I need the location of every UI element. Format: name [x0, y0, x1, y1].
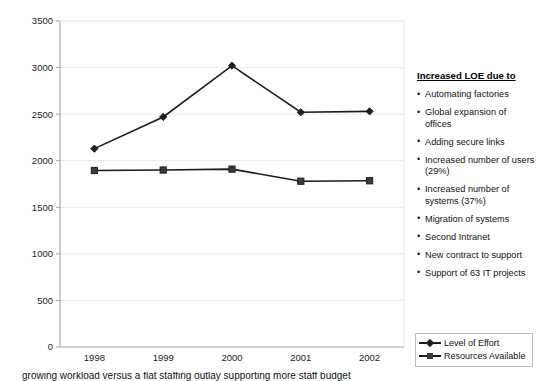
x-axis-tick-label: 1999	[153, 352, 174, 363]
annotation-item: Migration of systems	[417, 214, 535, 226]
data-point-marker	[298, 178, 304, 184]
y-axis-tick-label: 3500	[32, 15, 53, 26]
caption-text: growing workload versus a flat staffing …	[22, 372, 351, 381]
annotation-item: Second Intranet	[417, 232, 535, 244]
annotation-item: New contract to support	[417, 250, 535, 262]
legend-item-resources-available[interactable]: Resources Available	[419, 350, 529, 362]
y-axis-tick-labels: 0500100015002000250030003500	[32, 15, 53, 352]
chart-figure: 0500100015002000250030003500 19981999200…	[0, 0, 410, 381]
series-line-diamond	[94, 66, 369, 149]
data-point-marker	[367, 178, 373, 184]
line-chart-plot: 0500100015002000250030003500 19981999200…	[0, 0, 410, 381]
annotation-item: Increased number of users (29%)	[417, 155, 535, 178]
x-axis-tick-label: 2002	[359, 352, 380, 363]
legend-item-level-of-effort[interactable]: Level of Effort	[419, 337, 529, 349]
chart-legend[interactable]: Level of Effort Resources Available	[415, 333, 533, 367]
data-point-marker	[160, 167, 166, 173]
axes	[56, 21, 404, 347]
y-axis-tick-label: 1500	[32, 202, 53, 213]
x-axis-tick-label: 1998	[84, 352, 105, 363]
data-point-marker	[91, 167, 97, 173]
y-axis-tick-label: 0	[48, 341, 53, 352]
annotation-item: Automating factories	[417, 89, 535, 101]
annotation-panel: Increased LOE due to Automating factorie…	[417, 70, 535, 286]
data-point-marker	[229, 166, 235, 172]
y-axis-tick-label: 2500	[32, 109, 53, 120]
annotation-bullet-list: Automating factoriesGlobal expansion of …	[417, 89, 535, 279]
data-series	[91, 62, 373, 184]
legend-label-level-of-effort: Level of Effort	[444, 338, 499, 348]
annotation-panel-title: Increased LOE due to	[417, 70, 535, 82]
y-axis-tick-label: 2000	[32, 155, 53, 166]
y-axis-tick-label: 1000	[32, 248, 53, 259]
legend-marker-diamond-icon	[419, 338, 441, 348]
x-axis-tick-labels: 19981999200020012002	[84, 352, 380, 363]
annotation-item: Support of 63 IT projects	[417, 268, 535, 280]
annotation-item: Adding secure links	[417, 137, 535, 149]
x-axis-tick-label: 2001	[290, 352, 311, 363]
y-axis-tick-label: 500	[37, 295, 53, 306]
y-axis-tick-label: 3000	[32, 62, 53, 73]
annotation-item: Increased number of systems (37%)	[417, 184, 535, 207]
caption-strip: growing workload versus a flat staffing …	[0, 372, 538, 381]
data-point-marker	[91, 145, 98, 152]
annotation-item: Global expansion of offices	[417, 107, 535, 130]
legend-label-resources-available: Resources Available	[444, 351, 525, 361]
legend-marker-square-icon	[419, 351, 441, 361]
x-axis-tick-label: 2000	[221, 352, 242, 363]
